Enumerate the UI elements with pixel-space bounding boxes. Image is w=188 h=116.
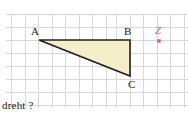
vertex-label-a: A bbox=[31, 25, 39, 37]
point-label-z: Z bbox=[155, 24, 162, 36]
caption: dreht ? bbox=[2, 99, 34, 111]
vertex-label-c: C bbox=[128, 78, 135, 90]
triangle-abc bbox=[39, 40, 130, 76]
geometry-figure: A B C Z dreht ? bbox=[0, 0, 188, 116]
point-z-marker bbox=[157, 39, 160, 42]
vertex-label-b: B bbox=[124, 25, 131, 37]
